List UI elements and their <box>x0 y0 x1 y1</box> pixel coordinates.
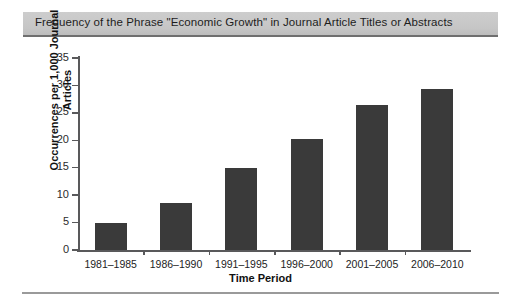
y-axis-title-wrap: Occurrences per 1,000 Journal Articles <box>30 62 48 247</box>
figure-caption-band: Frequency of the Phrase "Economic Growth… <box>23 12 498 37</box>
x-axis-tick-label: 2001–2005 <box>346 258 399 270</box>
x-axis-tick-label: 2006–2010 <box>411 258 464 270</box>
y-axis-title-line-2: Articles <box>61 70 73 110</box>
figure-caption-text: Frequency of the Phrase "Economic Growth… <box>35 16 453 28</box>
x-axis-tick-label: 1986–1990 <box>150 258 203 270</box>
plot-area: 05101520253035 1981–19851986–19901991–19… <box>78 58 470 250</box>
bottom-divider <box>22 292 499 294</box>
x-axis-tick-mark <box>405 250 407 255</box>
x-axis-title: Time Period <box>0 272 521 284</box>
x-axis-tick-mark <box>339 250 341 255</box>
y-axis-title: Occurrences per 1,000 Journal Articles <box>48 8 74 173</box>
figure-container: Frequency of the Phrase "Economic Growth… <box>0 0 521 301</box>
x-axis-tick-mark <box>143 250 145 255</box>
x-axis-tick-mark <box>209 250 211 255</box>
x-axis-tick-label: 1981–1985 <box>84 258 137 270</box>
bar <box>95 223 127 250</box>
y-axis-tick-label: 5 <box>63 215 69 227</box>
bar <box>356 105 388 250</box>
bar <box>421 89 453 250</box>
x-axis-tick-mark <box>274 250 276 255</box>
bar <box>160 203 192 250</box>
x-axis-tick-label: 1991–1995 <box>215 258 268 270</box>
y-axis-tick-mark <box>72 194 78 196</box>
bar <box>291 139 323 250</box>
x-axis-tick-label: 1996–2000 <box>280 258 333 270</box>
y-axis-tick-label: 0 <box>63 243 69 255</box>
y-axis-tick-mark <box>72 222 78 224</box>
y-axis-tick-mark <box>72 249 78 251</box>
y-axis-title-line-1: Occurrences per 1,000 Journal <box>48 10 60 171</box>
y-axis-tick-label: 10 <box>57 188 69 200</box>
bar <box>225 168 257 250</box>
